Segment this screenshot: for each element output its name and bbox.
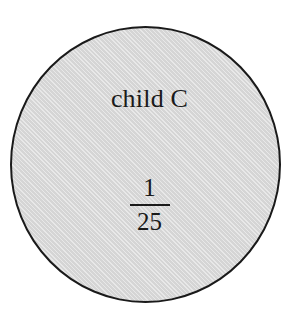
diagram-canvas: child C 1 25 — [0, 0, 297, 321]
child-node-circle — [10, 26, 281, 303]
